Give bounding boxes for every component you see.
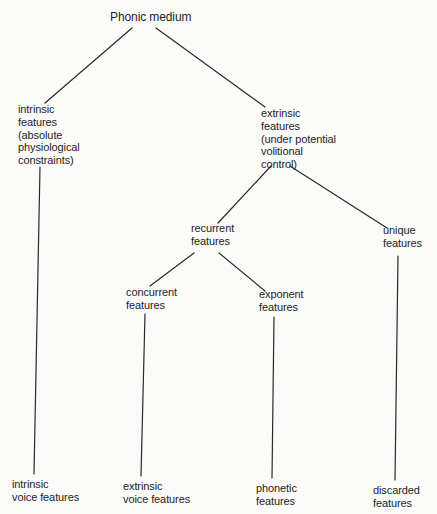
tree-edges [0,0,437,514]
node-exponent-features: exponent features [259,288,303,314]
node-label-line: intrinsic [12,478,79,491]
node-recurrent-features: recurrent features [191,222,234,248]
edge-recurrent-to-exponent [219,253,265,291]
node-label-line: extrinsic [123,480,190,493]
node-label-line: concurrent [126,286,177,299]
node-label-line: features [191,235,234,248]
node-extrinsic-features: extrinsic features (under potential voli… [261,107,336,171]
node-extrinsic-voice-features: extrinsic voice features [123,480,190,506]
node-label-line: constraints) [18,154,80,167]
node-unique-features: unique features [383,224,422,250]
node-label-line: control) [261,158,336,171]
edge-intrinsic-to-intrinsic_voice [34,167,40,474]
node-label-line: (absolute [18,129,80,142]
edge-extrinsic-to-recurrent [218,166,271,223]
edge-root-to-extrinsic [156,28,265,107]
node-concurrent-features: concurrent features [126,286,177,312]
node-intrinsic-voice-features: intrinsic voice features [12,478,79,504]
edge-root-to-intrinsic [45,28,132,103]
edge-unique-to-discarded [395,256,398,480]
node-label-line: discarded [373,484,420,497]
edge-concurrent-to-extrinsic_voice [141,314,145,476]
node-label-line: volitional [261,145,336,158]
phonic-medium-tree-diagram: Phonic medium intrinsic features (absolu… [0,0,437,514]
edge-extrinsic-to-unique [290,166,387,228]
node-label-line: exponent [259,288,303,301]
node-label-line: physiological [18,141,80,154]
edge-exponent-to-phonetic [272,317,274,478]
node-intrinsic-features: intrinsic features (absolute physiologic… [18,103,80,167]
node-label-line: features [261,120,336,133]
node-label-line: (under potential [261,133,336,146]
node-label-line: recurrent [191,222,234,235]
node-label-line: features [18,116,80,129]
node-label-line: voice features [12,491,79,504]
node-phonic-medium: Phonic medium [110,11,191,24]
node-discarded-features: discarded features [373,484,420,510]
node-phonetic-features: phonetic features [256,482,297,508]
node-label-line: features [126,299,177,312]
node-label-line: extrinsic [261,107,336,120]
node-label-line: voice features [123,493,190,506]
node-label-line: features [256,495,297,508]
node-label: Phonic medium [110,11,191,24]
node-label-line: phonetic [256,482,297,495]
node-label-line: unique [383,224,422,237]
node-label-line: features [259,301,303,314]
node-label-line: features [383,237,422,250]
node-label-line: features [373,497,420,510]
node-label-line: intrinsic [18,103,80,116]
edge-recurrent-to-concurrent [150,253,194,286]
